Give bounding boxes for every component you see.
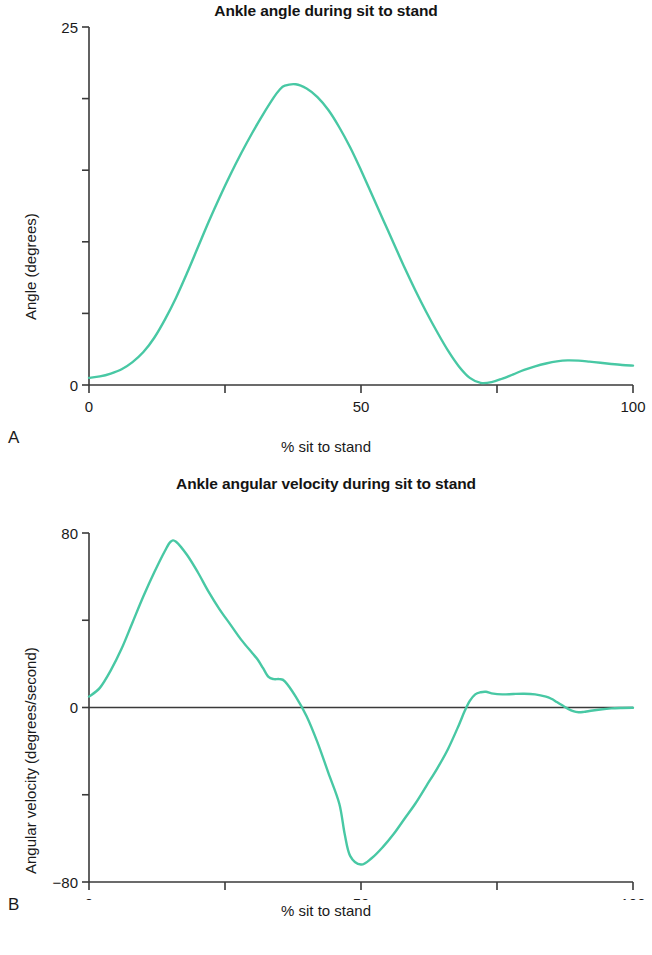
y-tick-label: 0 bbox=[70, 699, 78, 716]
data-line bbox=[89, 84, 633, 383]
x-tick-label: 100 bbox=[620, 398, 645, 415]
x-tick-label: 100 bbox=[620, 895, 645, 900]
y-tick-label: −80 bbox=[53, 874, 78, 891]
data-line bbox=[89, 540, 633, 864]
y-tick-label: 25 bbox=[61, 19, 78, 36]
panel-a-letter: A bbox=[8, 428, 19, 448]
panel-a-plot: 025050100 bbox=[0, 0, 652, 420]
panel-b-plot: −80080050100 bbox=[0, 490, 652, 900]
x-tick-label: 50 bbox=[353, 398, 370, 415]
x-tick-label: 0 bbox=[85, 398, 93, 415]
panel-a: Ankle angle during sit to stand 02505010… bbox=[0, 0, 652, 470]
y-tick-label: 80 bbox=[61, 525, 78, 542]
figure-container: Ankle angle during sit to stand 02505010… bbox=[0, 0, 652, 955]
x-tick-label: 0 bbox=[85, 895, 93, 900]
panel-b-yaxis-label: Angular velocity (degrees/second) bbox=[22, 647, 39, 874]
x-tick-label: 50 bbox=[353, 895, 370, 900]
y-tick-label: 0 bbox=[70, 377, 78, 394]
panel-b-letter: B bbox=[8, 895, 19, 915]
panel-a-yaxis-label: Angle (degrees) bbox=[22, 213, 39, 320]
panel-b-xaxis-label: % sit to stand bbox=[0, 902, 652, 919]
panel-a-xaxis-label: % sit to stand bbox=[0, 438, 652, 455]
panel-b: Ankle angular velocity during sit to sta… bbox=[0, 470, 652, 955]
